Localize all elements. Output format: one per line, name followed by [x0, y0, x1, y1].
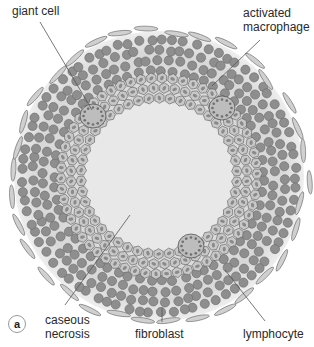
- lymphocyte-icon: [20, 196, 29, 205]
- lymphocyte-icon: [126, 295, 135, 304]
- giant-cell-nucleus-icon: [87, 107, 90, 110]
- giant-cell-nucleus-icon: [100, 110, 103, 113]
- lymphocyte-icon: [41, 227, 50, 236]
- giant-cell-nucleus-icon: [83, 110, 86, 113]
- lymphocyte-icon: [289, 150, 298, 159]
- lymphocyte-icon: [266, 201, 275, 210]
- giant-cell-nucleus-icon: [212, 111, 215, 114]
- lymphocyte-icon: [17, 178, 26, 187]
- giant-cell-nucleus-icon: [96, 107, 99, 110]
- label-fibroblast: fibroblast: [135, 327, 184, 341]
- lymphocyte-icon: [135, 307, 144, 316]
- panel-letter-badge: a: [8, 315, 26, 333]
- lymphocyte-icon: [188, 61, 197, 70]
- giant-cell-nucleus-icon: [221, 115, 224, 118]
- lymphocyte-icon: [291, 183, 300, 192]
- lymphocyte-icon: [241, 65, 250, 74]
- lymphocyte-icon: [264, 138, 273, 147]
- lymphocyte-icon: [53, 114, 62, 123]
- lymphocyte-icon: [121, 62, 130, 71]
- giant-cell-nucleus-icon: [185, 252, 188, 255]
- lymphocyte-icon: [155, 45, 164, 54]
- lymphocyte-icon: [129, 285, 138, 294]
- lymphocyte-icon: [172, 286, 181, 295]
- lymphocyte-icon: [42, 247, 51, 256]
- lymphocyte-icon: [174, 297, 183, 306]
- lymphocyte-icon: [254, 247, 263, 256]
- lymphocyte-icon: [138, 296, 147, 305]
- lymphocyte-icon: [268, 226, 277, 235]
- label-lymphocyte-text: lymphocyte: [243, 327, 304, 341]
- lymphocyte-icon: [49, 102, 58, 111]
- giant-cell-nucleus-icon: [190, 253, 193, 256]
- lymphocyte-icon: [224, 276, 233, 285]
- lymphocyte-icon: [129, 47, 138, 56]
- lymphocyte-icon: [74, 63, 83, 72]
- lymphocyte-icon: [292, 163, 301, 172]
- lymphocyte-icon: [110, 52, 119, 61]
- lymphocyte-icon: [203, 275, 212, 284]
- lymphocyte-icon: [43, 200, 52, 209]
- fibroblast-icon: [9, 185, 15, 209]
- lymphocyte-icon: [157, 35, 166, 44]
- lymphocyte-icon: [279, 229, 288, 238]
- lymphocyte-icon: [283, 218, 292, 227]
- lymphocyte-icon: [49, 258, 58, 267]
- lymphocyte-icon: [72, 91, 81, 100]
- fibroblast-icon: [306, 170, 313, 194]
- lymphocyte-icon: [22, 207, 31, 216]
- giant-cell-nucleus-icon: [230, 107, 233, 110]
- giant-cell-nucleus-icon: [92, 106, 95, 109]
- lymphocyte-icon: [135, 36, 144, 45]
- lymphocyte-icon: [78, 71, 87, 80]
- lymphocyte-icon: [235, 89, 244, 98]
- lymphocyte-icon: [275, 139, 284, 148]
- lymphocyte-icon: [38, 101, 47, 110]
- giant-cell-nucleus-icon: [212, 102, 215, 105]
- lymphocyte-icon: [30, 152, 39, 161]
- giant-cell-nucleus-icon: [82, 115, 85, 118]
- lymphocyte-icon: [38, 169, 47, 178]
- lymphocyte-icon: [253, 231, 262, 240]
- lymphocyte-icon: [185, 283, 194, 292]
- lymphocyte-icon: [247, 240, 256, 249]
- lymphocyte-icon: [281, 184, 290, 193]
- lymphocyte-icon: [199, 66, 208, 75]
- lymphocyte-icon: [216, 61, 225, 70]
- lymphocyte-icon: [266, 146, 275, 155]
- giant-cell-nucleus-icon: [216, 114, 219, 117]
- lymphocyte-icon: [81, 81, 90, 90]
- lymphocyte-icon: [262, 89, 271, 98]
- giant-cell-nucleus-icon: [96, 122, 99, 125]
- lymphocyte-icon: [44, 111, 53, 120]
- label-activated-text: activated: [243, 6, 310, 20]
- lymphocyte-icon: [167, 47, 176, 56]
- lymphocyte-icon: [94, 294, 103, 303]
- lymphocyte-icon: [270, 167, 279, 176]
- lymphocyte-icon: [30, 187, 39, 196]
- lymphocyte-icon: [123, 40, 132, 49]
- lymphocyte-icon: [55, 249, 64, 258]
- lymphocyte-icon: [148, 36, 157, 45]
- giant-cell-nucleus-icon: [180, 245, 183, 248]
- lymphocyte-icon: [69, 264, 78, 273]
- lymphocyte-icon: [107, 276, 116, 285]
- lymphocyte-icon: [102, 297, 111, 306]
- lymphocyte-icon: [215, 281, 224, 290]
- lymphocyte-icon: [262, 236, 271, 245]
- giant-cell-nucleus-icon: [101, 115, 104, 118]
- lymphocyte-icon: [156, 307, 165, 316]
- giant-cell-nucleus-icon: [87, 122, 90, 125]
- lymphocyte-icon: [278, 150, 287, 159]
- lymphocyte-icon: [180, 305, 189, 314]
- lymphocyte-icon: [109, 65, 118, 74]
- lymphocyte-icon: [240, 249, 249, 258]
- lymphocyte-icon: [87, 279, 96, 288]
- lymphocyte-icon: [196, 53, 205, 62]
- lymphocyte-icon: [63, 86, 72, 95]
- lymphocyte-icon: [268, 119, 277, 128]
- giant-cell-nucleus-icon: [198, 240, 201, 243]
- lymphocyte-icon: [38, 179, 47, 188]
- lymphocyte-icon: [280, 175, 289, 184]
- giant-cell-nucleus-icon: [194, 237, 197, 240]
